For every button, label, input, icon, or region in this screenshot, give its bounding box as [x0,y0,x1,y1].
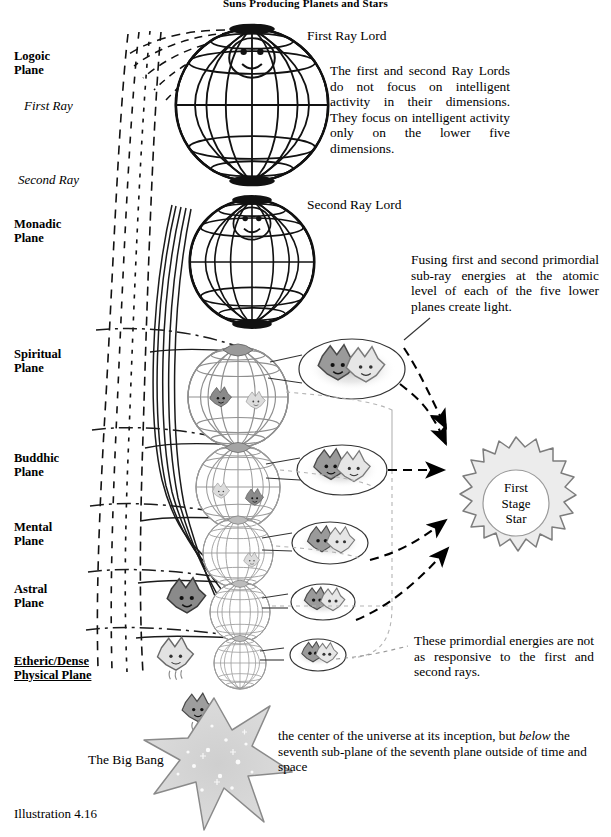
plane-label-monadic-line2: Plane [14,231,44,245]
plane-label-logoic-line1: Logoic [14,49,50,63]
illustration-canvas: Suns Producing Planets and Stars [0,0,611,837]
plane-label-astral: Astral Plane [14,583,47,610]
callout-spiritual [268,339,405,399]
globe-mental [203,516,273,588]
fusing-note-leader [404,318,430,340]
note-lords-focus: The first and second Ray Lords do not fo… [330,63,510,157]
plane-label-mental-line2: Plane [14,534,44,548]
plane-label-buddhic-line1: Buddhic [14,451,59,465]
plane-label-buddhic: Buddhic Plane [14,452,59,479]
ray-label-second: Second Ray [18,172,79,188]
arrow-mental-to-star [370,520,446,560]
star-label-line2: Stage [476,496,556,512]
globe-spiritual [188,344,288,447]
plane-label-etheric-line1: Etheric/Dense [14,654,89,668]
arrow-fusing-note [404,348,446,428]
callout-etheric [260,639,346,671]
big-bang-note: the center of the universe at its incept… [278,728,603,775]
plane-label-buddhic-line2: Plane [14,465,44,479]
note-fusing: Fusing first and second primordial sub-r… [411,252,599,314]
globe-monadic [190,195,314,329]
illustration-caption: Illustration 4.16 [14,806,97,822]
note-responsive: These primordial energies are not as res… [414,633,594,680]
creature-light-etheric-free [158,637,194,680]
big-bang-note-emphasis: below [519,728,551,743]
plane-label-etheric: Etheric/Dense Physical Plane [14,655,91,682]
plane-label-logoic-line2: Plane [14,63,44,77]
star-label-line3: Star [476,511,556,527]
first-ray-stream [97,31,161,674]
callout-astral [262,584,355,620]
big-bang-star [144,698,292,830]
ray-label-first: First Ray [24,98,73,114]
diagram-vectors [0,0,611,837]
plane-label-logoic: Logoic Plane [14,50,50,77]
plane-label-mental-line1: Mental [14,520,52,534]
plane-label-astral-line1: Astral [14,582,47,596]
creature-dark-astral-free [167,578,205,613]
plane-label-spiritual-line1: Spiritual [14,347,61,361]
plane-label-monadic-line1: Monadic [14,217,61,231]
globe-logoic [176,24,328,187]
plane-label-mental: Mental Plane [14,521,52,548]
arrow-astral-to-star [356,548,448,620]
callout-buddhic [266,445,387,495]
big-bang-note-pre: the center of the universe at its incept… [278,728,519,743]
plane-label-spiritual: Spiritual Plane [14,348,61,375]
plane-label-astral-line2: Plane [14,596,44,610]
first-stage-star-label: First Stage Star [476,480,556,527]
plane-label-monadic: Monadic Plane [14,218,61,245]
plane-label-etheric-line2: Physical Plane [14,668,91,682]
globe-etheric [214,635,266,689]
responsive-note-leader [336,646,408,659]
arrow-spiritual-to-star [400,384,446,444]
globe-astral [210,580,270,642]
big-bang-label: The Big Bang [88,752,164,768]
star-label-line1: First [476,480,556,496]
callout-mental [262,522,368,564]
plane-label-spiritual-line2: Plane [14,361,44,375]
label-second-ray-lord: Second Ray Lord [307,197,401,213]
label-first-ray-lord: First Ray Lord [307,28,387,44]
